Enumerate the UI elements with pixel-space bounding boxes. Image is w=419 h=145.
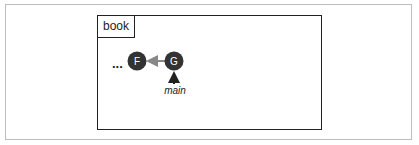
commit-node-f: F	[128, 52, 147, 71]
commit-graph: ... F G main	[0, 0, 419, 145]
branch-label-main: main	[164, 85, 186, 96]
commit-node-g: G	[165, 52, 184, 71]
commit-label-f: F	[134, 56, 140, 67]
ellipsis-text: ...	[112, 56, 123, 71]
commit-label-g: G	[170, 56, 178, 67]
